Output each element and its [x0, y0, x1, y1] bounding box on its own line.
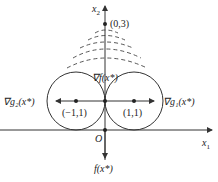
point-0-3 — [103, 22, 107, 26]
f-label: f(x*) — [94, 164, 113, 174]
level-curves — [67, 30, 147, 68]
origin-label: O — [95, 134, 102, 144]
point-0-3-label: (0,3) — [110, 19, 129, 29]
x-axis-label: x1 — [202, 138, 210, 151]
point-tangent — [103, 99, 107, 103]
point-m1-1 — [74, 99, 78, 103]
y-axis-label: x2 — [92, 4, 100, 17]
grad-f-label: ∇f(x*) — [92, 73, 118, 83]
diagram-graphics — [0, 0, 218, 182]
point-origin — [103, 128, 107, 132]
kkt-diagram: x2 (0,3) ∇f(x*) ∇g₂(x*) ∇g₁(x*) (−1,1) (… — [0, 0, 218, 182]
point-1-1 — [132, 99, 136, 103]
grad-g1-label: ∇g₁(x*) — [163, 97, 195, 107]
point-1-1-label: (1,1) — [123, 108, 142, 118]
grad-g2-label: ∇g₂(x*) — [3, 97, 35, 107]
point-m1-1-label: (−1,1) — [62, 108, 87, 118]
